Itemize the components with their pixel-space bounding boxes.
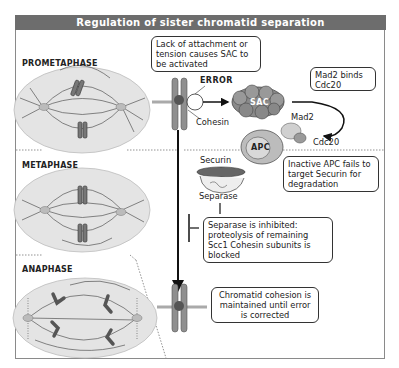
label-apc: APC bbox=[251, 143, 270, 152]
callout-sac-activation: Lack of attachment or tension causes SAC… bbox=[151, 36, 261, 72]
securin-separase bbox=[197, 167, 245, 193]
label-sac: SAC bbox=[250, 98, 269, 107]
callout-cohesion-maintained: Chromatid cohesion is maintained until e… bbox=[211, 287, 319, 323]
callout-mad2-binds: Mad2 binds Cdc20 bbox=[310, 67, 376, 91]
callout-separase-inhibited: Separase is inhibited: proteolysis of re… bbox=[203, 217, 333, 263]
label-mad2: Mad2 bbox=[291, 112, 314, 122]
label-cdc20: Cdc20 bbox=[313, 137, 339, 147]
label-separase: Separase bbox=[199, 191, 238, 201]
anaphase-cell bbox=[13, 278, 157, 358]
label-error: ERROR bbox=[200, 76, 233, 85]
label-cohesin: Cohesin bbox=[196, 117, 229, 127]
callout-inactive-apc: Inactive APC fails to target Securin for… bbox=[283, 156, 379, 192]
metaphase-cell bbox=[14, 168, 150, 252]
phase-label-prometaphase: PROMETAPHASE bbox=[22, 59, 98, 68]
label-securin: Securin bbox=[200, 155, 231, 165]
prometaphase-cell bbox=[14, 66, 150, 154]
phase-label-anaphase: ANAPHASE bbox=[22, 265, 73, 274]
phase-label-metaphase: METAPHASE bbox=[22, 161, 78, 170]
chromosome-cohesion bbox=[157, 284, 207, 332]
